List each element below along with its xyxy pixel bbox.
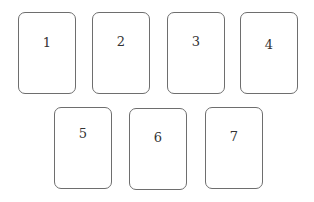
card-label: 3 [168,34,224,49]
card-label: 5 [55,126,111,141]
card-5[interactable]: 5 [54,107,112,189]
card-label: 1 [19,35,75,50]
card-label: 4 [241,37,297,52]
card-label: 6 [130,130,186,145]
card-3[interactable]: 3 [167,12,225,94]
card-label: 2 [93,34,149,49]
card-6[interactable]: 6 [129,108,187,190]
card-label: 7 [206,129,262,144]
card-7[interactable]: 7 [205,107,263,189]
card-4[interactable]: 4 [240,12,298,94]
card-2[interactable]: 2 [92,12,150,94]
card-1[interactable]: 1 [18,12,76,94]
